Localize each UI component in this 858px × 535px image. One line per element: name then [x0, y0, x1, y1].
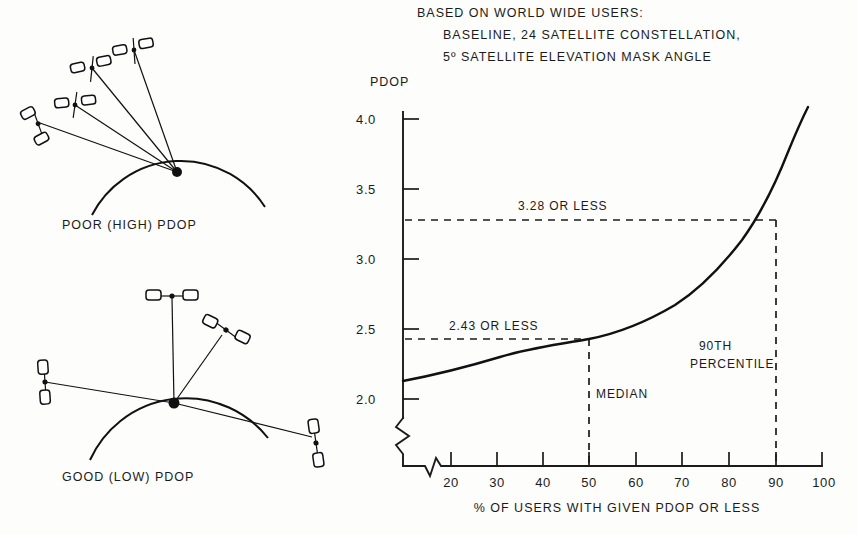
x-tick-label-80: 80: [721, 475, 737, 490]
x-tick-label-70: 70: [674, 475, 690, 490]
satellite-icon-poor-3: [68, 51, 112, 84]
annotation-median: MEDIAN: [596, 387, 648, 401]
satellite-icon-good-3: [200, 307, 252, 352]
y-tick-label-3_0: 3.0: [356, 252, 376, 267]
pdop-figure: BASED ON WORLD WIDE USERS: BASELINE, 24 …: [0, 0, 858, 535]
ray-good-1: [45, 382, 174, 403]
ray-good-4: [174, 403, 312, 437]
title-line-2: BASELINE, 24 SATELLITE CONSTELLATION,: [443, 28, 741, 42]
figure-root: BASED ON WORLD WIDE USERS: BASELINE, 24 …: [0, 0, 858, 535]
title-line-3: 5º SATELLITE ELEVATION MASK ANGLE: [443, 50, 712, 64]
x-tick-label-20: 20: [443, 475, 459, 490]
y-tick-label-4_0: 4.0: [356, 112, 376, 127]
x-tick-label-40: 40: [535, 475, 551, 490]
y-tick-labels: 4.0 3.5 3.0 2.5 2.0: [356, 112, 376, 407]
title-line-1: BASED ON WORLD WIDE USERS:: [417, 6, 644, 20]
pdop-distribution-curve: [403, 107, 808, 381]
x-tick-label-30: 30: [489, 475, 505, 490]
satellite-icon-poor-4: [112, 37, 155, 66]
x-tick-label-100: 100: [812, 475, 836, 490]
satellite-icon-good-2: [146, 290, 198, 300]
x-tick-marks: [451, 452, 776, 466]
annotation-3_28-or-less: 3.28 OR LESS: [518, 199, 608, 213]
ray-good-2: [172, 298, 174, 403]
chart-annotations: 3.28 OR LESS 2.43 OR LESS MEDIAN 90TH PE…: [449, 199, 774, 401]
chart-series-group: [403, 107, 808, 381]
satellite-icon-poor-2: [52, 89, 97, 121]
satellite-icon-good-4: [308, 419, 325, 468]
chart-title-block: BASED ON WORLD WIDE USERS: BASELINE, 24 …: [417, 6, 741, 64]
ray-poor-4: [134, 50, 177, 172]
y-axis-title: PDOP: [370, 75, 409, 89]
ray-good-3: [174, 335, 222, 403]
annotation-percentile: PERCENTILE: [690, 357, 774, 371]
x-tick-label-60: 60: [628, 475, 644, 490]
diagram-caption-poor: POOR (HIGH) PDOP: [62, 218, 197, 232]
x-axis-line: [403, 458, 822, 476]
annotation-90th: 90TH: [699, 339, 732, 353]
annotation-2_43-or-less: 2.43 OR LESS: [449, 319, 539, 333]
y-tick-marks: [403, 119, 419, 399]
diagram-poor-pdop: POOR (HIGH) PDOP: [19, 37, 265, 232]
y-tick-label-2_0: 2.0: [356, 392, 376, 407]
x-tick-labels: 20 30 40 50 60 70 80 90 100: [443, 475, 836, 490]
earth-arc-good: [90, 398, 268, 460]
y-axis-break: [396, 418, 409, 466]
diagram-caption-good: GOOD (LOW) PDOP: [62, 470, 194, 484]
x-tick-label-50: 50: [581, 475, 597, 490]
diagram-good-pdop: GOOD (LOW) PDOP: [37, 290, 324, 484]
chart-axes: PDOP 4.0 3.5 3.0 2.5: [356, 75, 836, 515]
satellite-icon-poor-1: [19, 104, 51, 148]
x-axis-title: % OF USERS WITH GIVEN PDOP OR LESS: [474, 501, 761, 515]
x-tick-label-90: 90: [768, 475, 784, 490]
y-tick-label-2_5: 2.5: [356, 322, 376, 337]
y-tick-label-3_5: 3.5: [356, 182, 376, 197]
ray-poor-2: [75, 105, 177, 172]
